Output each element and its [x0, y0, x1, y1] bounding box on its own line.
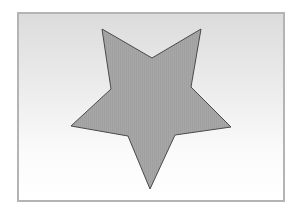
star-icon: [71, 29, 231, 189]
figure-canvas: [0, 0, 298, 217]
star-shape-layer: [0, 0, 298, 217]
